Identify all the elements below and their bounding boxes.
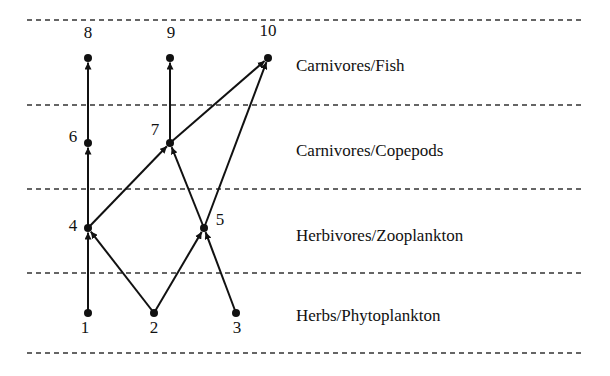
- node-label-5: 5: [205, 211, 235, 228]
- node-1: [84, 309, 92, 317]
- level-label-1: Carnivores/Copepods: [296, 142, 443, 159]
- level-label-2: Herbivores/Zooplankton: [296, 227, 463, 244]
- node-label-7: 7: [140, 121, 170, 138]
- edge-4-to-7: [88, 146, 167, 228]
- node-2: [150, 309, 158, 317]
- level-label-0: Carnivores/Fish: [296, 57, 405, 74]
- node-3: [232, 309, 240, 317]
- node-label-2: 2: [139, 319, 169, 336]
- node-label-4: 4: [58, 217, 88, 234]
- node-8: [84, 54, 92, 62]
- node-10: [264, 54, 272, 62]
- node-label-3: 3: [222, 319, 252, 336]
- level-label-3: Herbs/Phytoplankton: [296, 307, 441, 324]
- node-9: [166, 54, 174, 62]
- node-label-9: 9: [156, 24, 186, 41]
- edge-2-to-5: [154, 232, 202, 313]
- edge-2-to-4: [91, 232, 154, 313]
- edge-5-to-7: [172, 147, 204, 228]
- node-label-10: 10: [253, 22, 283, 39]
- node-label-8: 8: [73, 24, 103, 41]
- node-label-1: 1: [70, 319, 100, 336]
- feeding-edges: [88, 61, 266, 313]
- node-label-6: 6: [58, 128, 88, 145]
- node-7: [166, 139, 174, 147]
- species-nodes: [84, 54, 272, 317]
